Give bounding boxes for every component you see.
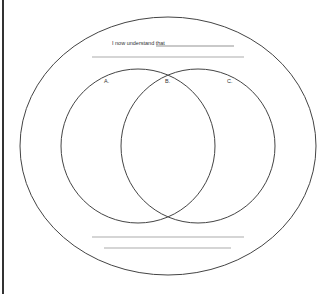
circle-c — [121, 69, 275, 223]
outer-ellipse — [20, 17, 316, 275]
label-b: B. — [165, 78, 170, 84]
prompt-text: I now understand that — [112, 40, 165, 46]
venn-diagram — [0, 0, 334, 294]
label-c: C. — [227, 78, 233, 84]
circle-a — [61, 69, 215, 223]
label-a: A. — [104, 78, 109, 84]
